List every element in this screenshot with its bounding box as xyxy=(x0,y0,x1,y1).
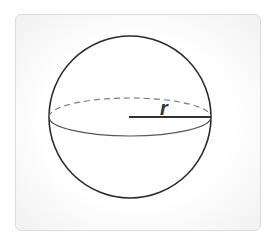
radius-label: r xyxy=(160,97,169,119)
sphere-diagram: r xyxy=(0,0,273,240)
equator-front xyxy=(49,117,211,136)
equator-back-dashed xyxy=(49,98,211,117)
